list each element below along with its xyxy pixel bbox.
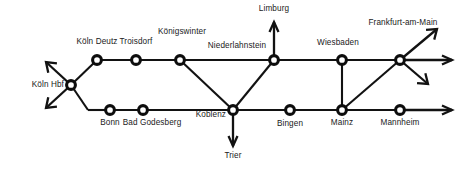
railway-network-diagram: Köln HbfKöln DeutzTroisdorfKönigswinterN… [0, 0, 467, 170]
station-node-mainz[interactable] [338, 106, 347, 115]
edge-mainz--frankfurt [342, 60, 400, 110]
station-label-bad-godesberg: Bad Godesberg [123, 119, 182, 127]
station-label-koenigswinter: Königswinter [158, 28, 206, 36]
station-label-mainz: Mainz [331, 119, 353, 127]
nodes-group [67, 56, 405, 115]
terminal-label-trier: Trier [224, 152, 241, 160]
station-label-koeln-deutz: Köln Deutz [76, 38, 117, 46]
station-label-mannheim: Mannheim [380, 119, 419, 127]
station-node-koenigswinter[interactable] [176, 56, 185, 65]
edges-group [71, 60, 400, 110]
arrow-line-frankfurt-northeast [400, 29, 437, 60]
station-label-bingen: Bingen [277, 120, 303, 128]
station-label-wiesbaden: Wiesbaden [317, 39, 359, 47]
edge-niederlahnstein--koblenz [233, 60, 274, 110]
station-node-bad-godesberg[interactable] [139, 106, 148, 115]
terminal-label-limburg: Limburg [259, 5, 289, 13]
station-label-koblenz: Koblenz [196, 111, 226, 119]
station-node-frankfurt[interactable] [396, 56, 405, 65]
station-node-bingen[interactable] [286, 106, 295, 115]
edge-koenigswinter--koblenz [180, 60, 233, 110]
station-node-bonn[interactable] [106, 106, 115, 115]
station-label-niederlahnstein: Niederlahnstein [208, 42, 266, 50]
station-label-frankfurt: Frankfurt-am-Main [368, 19, 437, 27]
station-node-koblenz[interactable] [229, 106, 238, 115]
station-node-niederlahnstein[interactable] [270, 56, 279, 65]
station-node-troisdorf[interactable] [132, 56, 141, 65]
station-node-koeln-deutz[interactable] [93, 56, 102, 65]
station-label-koeln-hbf: Köln Hbf [32, 81, 64, 89]
station-label-troisdorf: Troisdorf [120, 38, 153, 46]
station-node-mannheim[interactable] [396, 106, 405, 115]
station-node-koeln-hbf[interactable] [67, 81, 76, 90]
station-node-wiesbaden[interactable] [338, 56, 347, 65]
station-label-bonn: Bonn [100, 119, 120, 127]
